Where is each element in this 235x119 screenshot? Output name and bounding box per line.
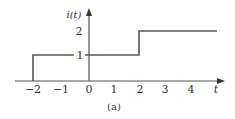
x-tick-label-2: 2: [137, 83, 144, 96]
series-i-of-t: [33, 31, 217, 81]
x-tick-label-neg2: −2: [25, 83, 41, 96]
y-tick-label-1: 1: [77, 49, 84, 62]
y-axis: [86, 8, 92, 81]
x-tick-label-neg1: −1: [53, 83, 69, 96]
x-tick-label-4: 4: [188, 83, 195, 96]
x-tick-label-1: 1: [111, 83, 118, 96]
x-tick-label-3: 3: [162, 83, 169, 96]
x-tick-label-0: 0: [86, 83, 93, 96]
y-tick-label-2: 2: [76, 25, 83, 38]
figure-caption: (a): [107, 101, 121, 112]
x-axis-label: t: [214, 83, 219, 96]
y-axis-arrow-icon: [86, 8, 92, 16]
step-function-chart: 2 1 i(t) −2 −1 0 1 2 3 4 t (a): [0, 0, 235, 119]
y-axis-label: i(t): [66, 9, 81, 20]
x-tick-labels: −2 −1 0 1 2 3 4: [25, 83, 195, 96]
